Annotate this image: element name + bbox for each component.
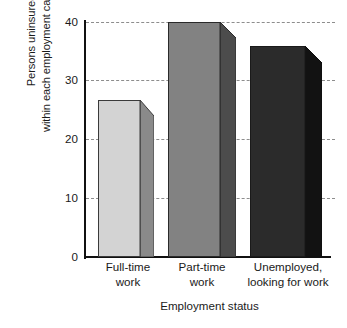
bar-chart: Persons uninsured within each employment… [0, 0, 347, 328]
bar-full-time-work-side [140, 100, 154, 257]
bar-unemployed-looking-for-work [250, 46, 322, 257]
x-tick-label-unemployed-line2: looking for work [234, 275, 342, 290]
bar-unemployed-shape [250, 46, 322, 257]
y-tick-label-10: 10 [50, 192, 78, 204]
x-tick-label-unemployed-line1: Unemployed, [234, 260, 342, 275]
bar-part-time-work-shape [168, 22, 236, 257]
bar-full-time-work [98, 100, 154, 257]
bar-unemployed-side [305, 46, 322, 257]
bar-part-time-work-face [169, 23, 221, 257]
x-axis-title: Employment status [84, 299, 335, 312]
y-axis-title-line1: Persons uninsured [24, 0, 39, 157]
y-tick-label-0: 0 [50, 251, 78, 263]
bar-full-time-work-shape [98, 100, 154, 257]
bar-part-time-work-side [220, 22, 236, 257]
x-tick-label-unemployed: Unemployed, looking for work [234, 260, 342, 289]
bars-layer [84, 22, 335, 257]
y-tick-label-40: 40 [50, 16, 78, 28]
bar-full-time-work-face [99, 101, 141, 257]
x-axis-tick-labels: Full-time work Part-time work Unemployed… [84, 260, 335, 296]
y-axis-tick-labels: 40 30 20 10 0 [46, 0, 78, 328]
y-tick-label-30: 30 [50, 74, 78, 86]
bar-unemployed-face [251, 47, 306, 257]
y-tick-label-20: 20 [50, 133, 78, 145]
bar-part-time-work [168, 22, 236, 257]
